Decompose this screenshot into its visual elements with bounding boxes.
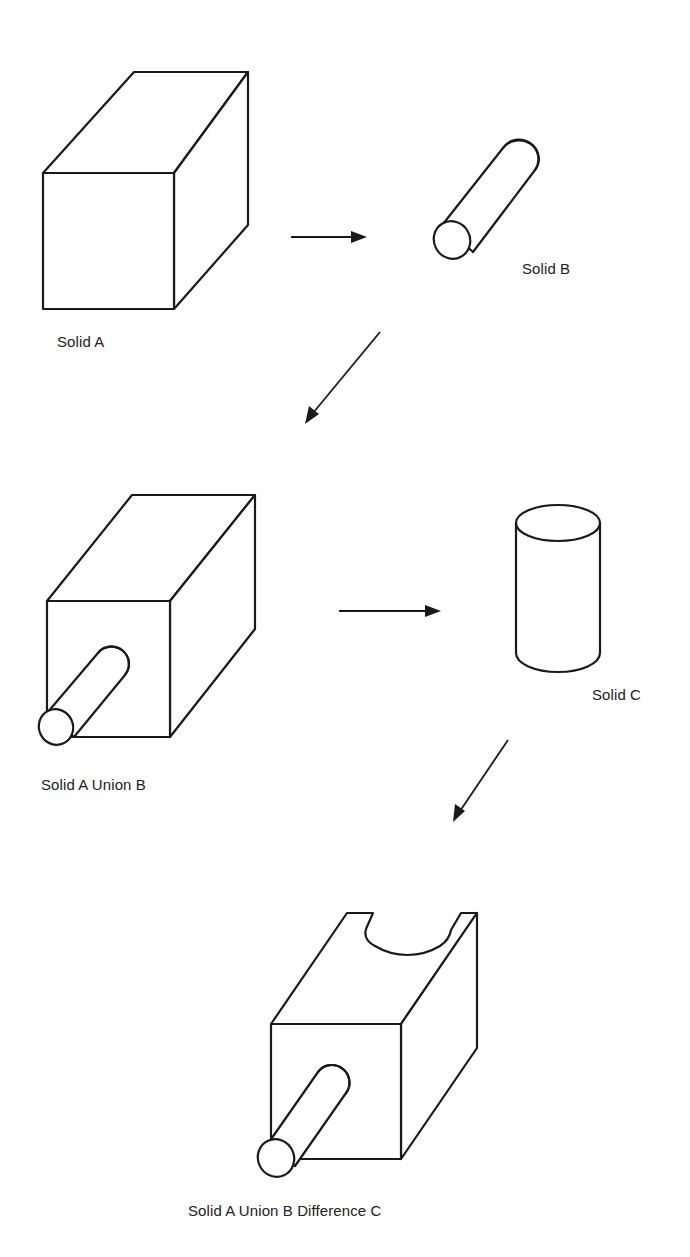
solid-b-cylinder — [427, 140, 539, 266]
solid-a-union-b-shape — [33, 495, 255, 750]
solid-a-block — [43, 72, 248, 309]
label-solid-a-union-b-difference-c: Solid A Union B Difference C — [188, 1202, 381, 1219]
arrow-right-1 — [291, 231, 367, 243]
solid-c-cylinder — [516, 505, 600, 672]
label-solid-a-union-b: Solid A Union B — [41, 776, 146, 793]
arrow-down-left-1 — [305, 332, 380, 424]
label-solid-c: Solid C — [592, 686, 641, 703]
label-solid-b: Solid B — [522, 260, 570, 277]
arrow-right-2 — [339, 605, 441, 617]
label-solid-a: Solid A — [57, 333, 104, 350]
solid-a-union-b-difference-c-shape — [252, 913, 477, 1183]
csg-diagram — [0, 0, 690, 1257]
arrow-down-left-2 — [453, 740, 508, 822]
